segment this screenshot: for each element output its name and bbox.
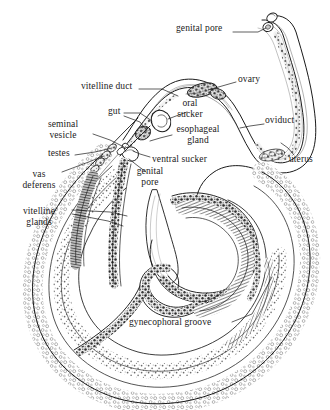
female-worm xyxy=(121,11,316,173)
label-uterus: uterus xyxy=(289,154,313,165)
label-genital-pore-male: genital pore xyxy=(126,166,174,187)
label-ventral-sucker: ventral sucker xyxy=(152,154,207,165)
label-seminal-vesicle: seminal vesicle xyxy=(34,119,92,140)
label-vitelline-glands: vitelline glands xyxy=(8,206,70,227)
schistosoma-illustration xyxy=(0,0,330,410)
label-oviduct: oviduct xyxy=(265,115,294,126)
schistosoma-figure: genital pore vitelline duct ovary gut or… xyxy=(0,0,330,410)
label-vitelline-duct: vitelline duct xyxy=(81,81,132,92)
label-vas-deferens: vas deferens xyxy=(10,169,68,190)
female-genital-pore xyxy=(262,11,279,33)
label-testes: testes xyxy=(48,148,70,159)
label-genital-pore-female: genital pore xyxy=(176,23,222,34)
uterus-egg-chain xyxy=(258,34,298,159)
label-ovary: ovary xyxy=(238,74,260,85)
label-gut: gut xyxy=(108,106,120,117)
label-gynecophoral-groove: gynecophoral groove xyxy=(129,317,211,328)
label-esophageal-gland: esophageal gland xyxy=(166,124,230,145)
leader-oviduct xyxy=(240,124,264,128)
label-oral-sucker: oral sucker xyxy=(164,98,216,119)
